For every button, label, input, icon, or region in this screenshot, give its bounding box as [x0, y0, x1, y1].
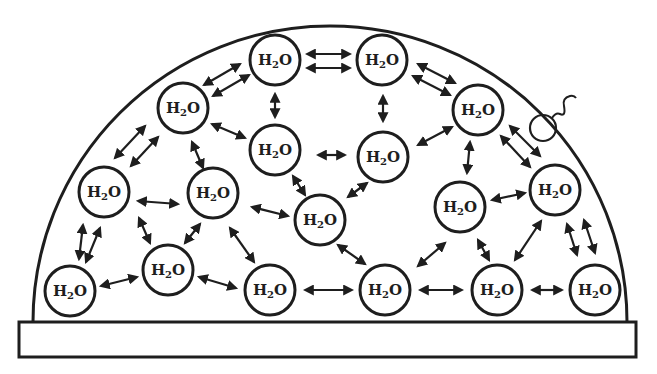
h2o-molecule: H2O	[472, 265, 522, 315]
escaping-molecule	[530, 96, 576, 141]
double-arrow-icon	[101, 277, 137, 286]
h2o-molecule: H2O	[435, 182, 485, 232]
wavy-tail-icon	[552, 96, 576, 118]
double-arrow-icon	[115, 126, 145, 158]
double-arrow-icon	[185, 224, 200, 243]
water-molecule-dome-diagram: H2OH2OH2OH2OH2OH2OH2OH2OH2OH2OH2OH2OH2OH…	[0, 0, 657, 374]
h2o-molecule: H2O	[143, 245, 193, 295]
double-arrow-icon	[348, 183, 367, 197]
h2o-molecule: H2O	[250, 125, 300, 175]
double-arrow-icon	[212, 124, 245, 138]
double-arrow-icon	[252, 207, 288, 216]
double-arrow-icon	[413, 76, 450, 95]
double-arrow-icon	[293, 176, 305, 195]
h2o-molecule: H2O	[188, 168, 238, 218]
h2o-molecule: H2O	[357, 35, 407, 85]
double-arrow-icon	[192, 142, 203, 168]
double-arrow-icon	[213, 75, 249, 96]
double-arrow-icon	[338, 245, 365, 264]
double-arrow-icon	[139, 218, 150, 243]
h2o-molecule: H2O	[570, 265, 620, 315]
water-molecules: H2OH2OH2OH2OH2OH2OH2OH2OH2OH2OH2OH2OH2OH…	[45, 35, 620, 316]
h2o-molecule: H2O	[45, 266, 95, 316]
escaping-molecule-circle	[530, 115, 556, 141]
double-arrow-icon	[79, 225, 83, 259]
h2o-molecule: H2O	[530, 165, 580, 215]
double-arrow-icon	[418, 127, 452, 145]
double-arrow-icon	[515, 221, 541, 260]
double-arrow-icon	[478, 240, 489, 260]
double-arrow-icon	[567, 224, 577, 255]
h2o-molecule: H2O	[360, 265, 410, 315]
double-arrow-icon	[467, 142, 470, 173]
double-arrow-icon	[138, 201, 178, 204]
double-arrow-icon	[204, 64, 240, 85]
h2o-molecule: H2O	[158, 83, 208, 133]
h2o-molecule: H2O	[79, 167, 129, 217]
h2o-molecule: H2O	[250, 35, 300, 85]
double-arrow-icon	[492, 193, 525, 200]
double-arrow-icon	[230, 228, 254, 262]
double-arrow-icon	[418, 243, 445, 266]
base-platform	[19, 322, 636, 357]
h2o-molecule: H2O	[453, 85, 503, 135]
double-arrow-icon	[418, 64, 455, 83]
double-arrow-icon	[584, 220, 595, 253]
double-arrow-icon	[86, 228, 100, 262]
h2o-molecule: H2O	[358, 132, 408, 182]
h2o-molecule: H2O	[295, 195, 345, 245]
double-arrow-icon	[199, 277, 236, 288]
double-arrow-icon	[131, 137, 158, 166]
h2o-molecule: H2O	[245, 265, 295, 315]
